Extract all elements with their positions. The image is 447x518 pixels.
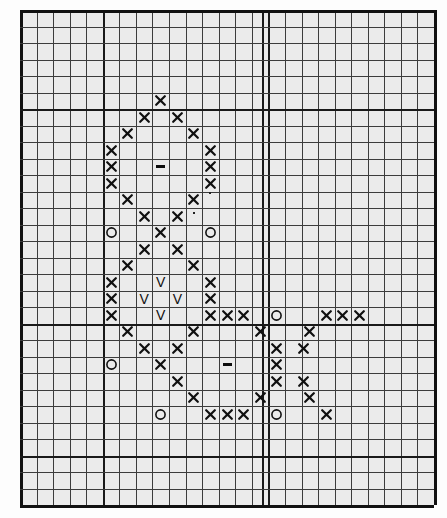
grid-line-vertical xyxy=(152,10,153,505)
vee-mark: V xyxy=(169,291,185,307)
grid-line-vertical xyxy=(37,10,38,505)
grid-line-horizontal xyxy=(20,159,434,160)
cross-mark xyxy=(186,324,202,340)
cross-mark xyxy=(153,225,169,241)
grid-line-horizontal xyxy=(20,472,434,473)
cross-mark xyxy=(169,241,185,257)
grid-line-vertical xyxy=(252,10,253,505)
grid-lines-layer xyxy=(20,10,434,505)
grid-line-horizontal xyxy=(20,390,434,391)
cross-mark xyxy=(269,373,285,389)
cross-mark xyxy=(202,274,218,290)
grid-line-horizontal xyxy=(20,505,434,508)
grid-line-horizontal xyxy=(20,489,434,490)
cross-mark xyxy=(169,373,185,389)
cross-mark xyxy=(186,192,202,208)
cross-mark xyxy=(302,390,318,406)
figure-sheet: VVVV xyxy=(0,0,447,518)
grid-line-horizontal xyxy=(20,357,434,358)
grid-line-horizontal xyxy=(20,142,434,143)
grid-line-vertical xyxy=(335,10,336,505)
grid-line-horizontal xyxy=(20,27,434,28)
plot-area: VVVV xyxy=(20,10,434,505)
cross-mark xyxy=(103,274,119,290)
cross-mark xyxy=(236,406,252,422)
cross-mark xyxy=(202,159,218,175)
cross-mark xyxy=(269,357,285,373)
cross-mark xyxy=(103,291,119,307)
grid-line-horizontal xyxy=(20,258,434,259)
cross-mark xyxy=(120,258,136,274)
grid-line-horizontal xyxy=(20,340,434,341)
cross-mark xyxy=(202,307,218,323)
circle-mark xyxy=(153,406,169,422)
vee-mark: V xyxy=(153,274,169,290)
grid-line-horizontal xyxy=(20,10,434,13)
grid-line-vertical xyxy=(53,10,54,505)
dash-mark xyxy=(153,159,169,175)
cross-mark xyxy=(153,93,169,109)
cross-mark xyxy=(103,159,119,175)
cross-mark xyxy=(252,324,268,340)
grid-line-horizontal xyxy=(20,456,434,458)
grid-line-vertical xyxy=(103,10,105,505)
grid-line-vertical xyxy=(302,10,303,505)
grid-line-horizontal xyxy=(20,373,434,374)
grid-line-vertical xyxy=(119,10,120,505)
cross-mark xyxy=(120,324,136,340)
grid-line-vertical xyxy=(86,10,87,505)
cross-mark xyxy=(202,291,218,307)
cross-mark xyxy=(269,340,285,356)
cross-mark xyxy=(136,109,152,125)
grid-line-vertical xyxy=(20,10,23,505)
cross-mark xyxy=(169,208,185,224)
cross-mark xyxy=(295,373,311,389)
cross-mark xyxy=(136,208,152,224)
grid-line-horizontal xyxy=(20,423,434,424)
cross-mark xyxy=(103,142,119,158)
grid-line-horizontal xyxy=(20,43,434,44)
dot-mark xyxy=(202,185,218,201)
dot-mark xyxy=(186,205,202,221)
grid-line-horizontal xyxy=(20,93,434,94)
cross-mark xyxy=(186,126,202,142)
grid-line-vertical xyxy=(384,10,385,505)
cross-mark xyxy=(302,324,318,340)
grid-line-horizontal xyxy=(20,76,434,77)
cross-mark xyxy=(169,340,185,356)
cross-mark xyxy=(186,390,202,406)
grid-line-horizontal xyxy=(20,208,434,209)
grid-line-vertical xyxy=(235,10,236,505)
cross-mark xyxy=(169,109,185,125)
circle-mark xyxy=(269,307,285,323)
cross-mark xyxy=(318,307,334,323)
cross-mark xyxy=(219,307,235,323)
grid-line-vertical xyxy=(70,10,71,505)
vee-mark: V xyxy=(153,307,169,323)
cross-mark xyxy=(295,340,311,356)
cross-mark xyxy=(335,307,351,323)
grid-line-vertical xyxy=(136,10,137,505)
grid-line-horizontal xyxy=(20,324,434,326)
cross-mark xyxy=(351,307,367,323)
cross-mark xyxy=(236,307,252,323)
cross-mark xyxy=(252,390,268,406)
grid-line-vertical xyxy=(401,10,402,505)
grid-line-vertical-emphasis xyxy=(262,10,264,505)
dash-mark xyxy=(219,357,235,373)
circle-mark xyxy=(103,225,119,241)
cross-mark xyxy=(153,357,169,373)
grid-line-horizontal xyxy=(20,307,434,308)
cross-mark xyxy=(202,175,218,191)
grid-line-vertical xyxy=(318,10,319,505)
grid-line-horizontal xyxy=(20,439,434,440)
grid-line-horizontal xyxy=(20,225,434,226)
grid-line-vertical xyxy=(368,10,369,505)
grid-line-vertical xyxy=(169,10,170,505)
grid-line-horizontal xyxy=(20,291,434,292)
cross-mark xyxy=(136,340,152,356)
grid-line-horizontal xyxy=(20,192,434,193)
cross-mark xyxy=(103,175,119,191)
grid-line-vertical xyxy=(417,10,418,505)
grid-line-vertical xyxy=(285,10,286,505)
